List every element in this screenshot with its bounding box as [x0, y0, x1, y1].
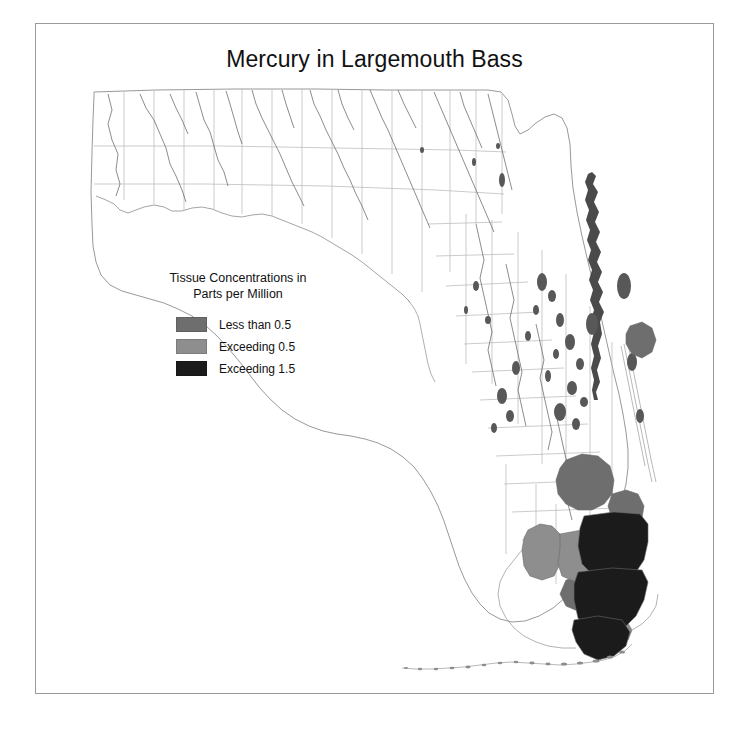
legend: Tissue Concentrations in Parts per Milli… — [154, 270, 354, 382]
legend-item-exceeding-15: Exceeding 1.5 — [154, 360, 354, 377]
legend-item-less-than-05: Less than 0.5 — [154, 316, 354, 333]
county-shaded-lt05-a — [556, 454, 614, 510]
county-shaded-lt05-c — [626, 322, 656, 358]
figure-frame: Mercury in Largemouth Bass — [35, 23, 714, 694]
legend-item-exceeding-05: Exceeding 0.5 — [154, 338, 354, 355]
legend-title-line2: Parts per Million — [154, 286, 322, 302]
legend-label-exceeding-15: Exceeding 1.5 — [219, 362, 295, 376]
legend-items: Less than 0.5 Exceeding 0.5 Exceeding 1.… — [154, 316, 354, 377]
legend-label-less-than-05: Less than 0.5 — [219, 318, 291, 332]
county-shaded-gt05-a — [522, 524, 562, 580]
legend-title: Tissue Concentrations in Parts per Milli… — [154, 270, 322, 302]
county-shaded-gt15-a — [578, 512, 648, 576]
legend-swatch-less-than-05 — [176, 317, 207, 332]
legend-title-line1: Tissue Concentrations in — [154, 270, 322, 286]
legend-swatch-exceeding-05 — [176, 339, 207, 354]
legend-swatch-exceeding-15 — [176, 361, 207, 376]
legend-label-exceeding-05: Exceeding 0.5 — [219, 340, 295, 354]
florida-map — [36, 24, 715, 695]
